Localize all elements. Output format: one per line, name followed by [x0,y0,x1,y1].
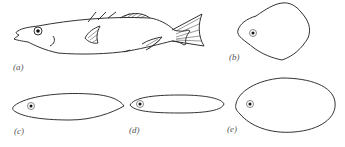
fish-shape-diagram: (a) (b) (c) (d) (e) [0,0,345,147]
diagram-drawing [0,0,345,147]
label-e: (e) [227,124,237,134]
fish-side-view [14,12,204,54]
label-b: (b) [229,52,240,62]
cross-section-b [238,3,310,60]
cross-section-c [13,94,124,121]
cross-section-d [130,95,224,113]
label-d: (d) [129,125,140,135]
label-c: (c) [14,126,24,136]
label-a: (a) [13,62,24,72]
cross-section-e [236,78,336,132]
